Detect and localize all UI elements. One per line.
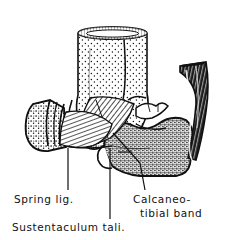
label-calcaneo-tibial-band-line1: Calcaneo-: [133, 193, 191, 205]
anatomical-figure: Spring lig. Sustentaculum tali. Calcaneo…: [0, 0, 235, 240]
label-spring-ligament: Spring lig.: [14, 193, 74, 205]
label-calcaneo-tibial-band-line2: tibial band: [140, 207, 202, 219]
ankle-ligament-illustration: Spring lig. Sustentaculum tali. Calcaneo…: [0, 0, 235, 240]
bone-structures: [26, 27, 208, 176]
figure-labels: Spring lig. Sustentaculum tali. Calcaneo…: [12, 193, 202, 233]
label-sustentaculum-tali: Sustentaculum tali.: [12, 221, 125, 233]
